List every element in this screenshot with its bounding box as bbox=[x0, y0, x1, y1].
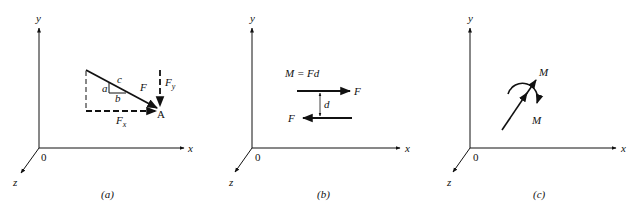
moment-vector-arrow-inner bbox=[502, 93, 527, 130]
origin-label: 0 bbox=[255, 151, 261, 163]
point-a-label: A bbox=[157, 108, 165, 120]
moment-top-label: M bbox=[538, 66, 549, 78]
caption-a: (a) bbox=[101, 188, 114, 201]
z-axis-label: z bbox=[12, 176, 18, 188]
y-axis-label: y bbox=[35, 12, 41, 24]
moment-equation: M = Fd bbox=[284, 67, 320, 79]
side-a-label: a bbox=[102, 82, 108, 94]
z-axis bbox=[235, 148, 252, 172]
force-bottom-label: F bbox=[287, 112, 295, 124]
origin-label: 0 bbox=[473, 151, 479, 163]
x-axis-label: x bbox=[404, 142, 410, 154]
z-axis-label: z bbox=[446, 176, 452, 188]
y-axis-label: y bbox=[467, 12, 473, 24]
panel-c: y x z 0 M M (c) bbox=[446, 12, 626, 201]
force-f-label: F bbox=[139, 81, 147, 93]
origin-label: 0 bbox=[41, 151, 47, 163]
side-c-label: c bbox=[117, 73, 122, 85]
force-top-label: F bbox=[353, 85, 361, 97]
fx-label: Fx bbox=[115, 114, 127, 129]
panel-b: y x z 0 M = Fd F F d (b) bbox=[228, 12, 410, 201]
x-axis-label: x bbox=[620, 142, 626, 154]
caption-b: (b) bbox=[317, 188, 330, 201]
y-axis-label: y bbox=[249, 12, 255, 24]
z-axis bbox=[453, 148, 470, 172]
panel-a: y x z 0 a b c F Fy A Fx (a) bbox=[12, 12, 193, 201]
side-b-label: b bbox=[115, 92, 121, 104]
distance-label: d bbox=[324, 98, 330, 110]
moment-bottom-label: M bbox=[531, 114, 542, 126]
caption-c: (c) bbox=[533, 188, 546, 201]
figure-diagram: y x z 0 a b c F Fy A Fx (a) y x z 0 M = … bbox=[0, 0, 638, 217]
z-axis-label: z bbox=[228, 176, 234, 188]
fy-label: Fy bbox=[164, 76, 176, 91]
z-axis bbox=[21, 148, 39, 173]
x-axis-label: x bbox=[187, 142, 193, 154]
